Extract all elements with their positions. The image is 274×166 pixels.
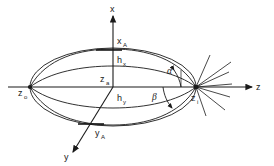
z-a-dimension-label-group: z a <box>100 74 110 86</box>
diagram-canvas: x z y z o z i x A h x z a h y y A α <box>0 0 274 166</box>
x-axis-label: x <box>110 4 115 14</box>
x-axis-label-group: x <box>110 4 115 14</box>
right-vertex-label-group: z i <box>191 93 198 105</box>
inner-lower-meridian <box>30 87 196 108</box>
right-vertex-subscript: i <box>197 99 198 105</box>
y-axis-label: y <box>64 152 69 162</box>
beta-angle-arc <box>163 87 172 108</box>
h-y-dimension-label-group: h y <box>117 93 126 105</box>
h-y-subscript: y <box>123 99 126 105</box>
left-vertex-label-group: z o <box>18 88 28 100</box>
h-x-label: h <box>117 55 122 65</box>
left-vertex-subscript: o <box>24 94 28 100</box>
right-vertex-point <box>193 85 198 89</box>
left-vertex-label: z <box>18 88 23 98</box>
y-a-subscript: A <box>101 134 105 140</box>
h-y-label: h <box>117 93 122 103</box>
h-x-dimension-label-group: h x <box>117 55 126 67</box>
right-vertex-ray-fan <box>196 55 232 116</box>
beta-angle-label: β <box>151 92 157 102</box>
z-axis-label: z <box>256 82 261 92</box>
y-axis-line <box>73 87 113 152</box>
z-a-subscript: a <box>106 80 110 86</box>
alpha-angle-arc <box>174 70 181 87</box>
y-axis-label-group: y <box>64 152 69 162</box>
z-a-label: z <box>100 74 105 84</box>
lower-lens-curve <box>30 87 196 125</box>
y-a-dimension-label-group: y A <box>95 128 105 140</box>
y-a-label: y <box>95 128 100 138</box>
left-vertex-point <box>28 85 32 89</box>
x-a-dimension-label-group: x A <box>117 36 127 48</box>
x-a-label: x <box>117 36 122 46</box>
x-a-subscript: A <box>123 42 127 48</box>
z-axis-label-group: z <box>256 82 261 92</box>
right-vertex-label: z <box>191 93 196 103</box>
h-x-subscript: x <box>123 61 126 67</box>
